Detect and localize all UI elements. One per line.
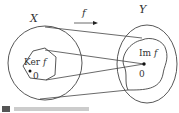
codomain-label: Y (139, 3, 148, 16)
mapping-line (40, 90, 128, 99)
image-label: Im f (139, 48, 159, 58)
zero-point-left (29, 70, 32, 73)
kernel-image-diagram: X f Y Ker f 0 Im f 0 (0, 0, 179, 113)
mapping-line (45, 27, 142, 38)
caption-fragment (14, 107, 89, 111)
caption-fragment (2, 106, 10, 112)
zero-label-right: 0 (139, 69, 145, 79)
arrow-head-icon (93, 21, 98, 25)
codomain-set-y (117, 25, 177, 103)
domain-label: X (29, 12, 39, 25)
map-label: f (81, 7, 88, 18)
zero-point-right (142, 62, 145, 65)
kernel-map-line (45, 50, 144, 64)
kernel-map-line (46, 64, 144, 80)
diagram-canvas: X f Y Ker f 0 Im f 0 (0, 0, 179, 113)
kernel-label: Ker f (24, 57, 48, 67)
zero-label-left: 0 (33, 71, 39, 81)
